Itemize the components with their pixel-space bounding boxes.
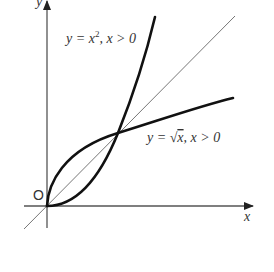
function-graph: y x O y = x2, x > 0 y = √x, x > 0 xyxy=(0,0,274,272)
sqrt-label-lhs: y = xyxy=(145,130,170,145)
identity-line xyxy=(24,16,235,229)
parabola-label: y = x2, x > 0 xyxy=(64,29,136,46)
y-axis-label: y xyxy=(34,0,43,9)
parabola-label-rhs: , x > 0 xyxy=(99,31,136,46)
origin-label: O xyxy=(33,187,44,203)
sqrt-label-rhs: , x > 0 xyxy=(184,130,221,145)
x-axis-label: x xyxy=(243,209,251,224)
sqrt-curve xyxy=(47,98,233,206)
parabola-label-lhs: y = x xyxy=(64,31,96,46)
sqrt-label: y = √x, x > 0 xyxy=(145,130,220,145)
